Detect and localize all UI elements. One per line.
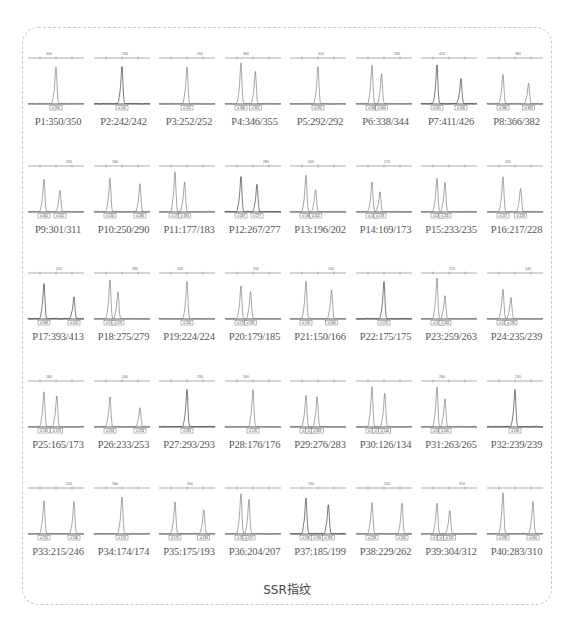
electropherogram: 280sl 275sl 279	[92, 259, 154, 329]
electropherogram: 240sl 235sl 239	[485, 259, 547, 329]
allele-bin-label: sl 173	[53, 429, 61, 433]
panel-p14: 170sl 169sl 173P14:169/173	[354, 152, 420, 260]
panel-p4: 360sl 346sl 355P4:346/355	[223, 44, 289, 152]
panel-p16: 220sl 217sl 228P16:217/228	[485, 152, 551, 260]
peak-trace	[94, 497, 150, 534]
panel-label: P23:259/263	[419, 331, 483, 342]
panel-p2: 250sl 242P2:242/242	[92, 44, 158, 152]
electropherogram: 160sl 165sl 173	[26, 367, 88, 437]
panel-label: P20:179/185	[223, 331, 287, 342]
peak-trace	[159, 67, 215, 104]
axis-tick-label: 200	[187, 482, 193, 486]
panel-label: P28:176/176	[223, 439, 287, 450]
allele-bin-label: sl 301	[40, 214, 48, 218]
panel-label: P36:204/207	[223, 546, 287, 557]
panel-label: P10:250/290	[92, 224, 156, 235]
electropherogram: 310sl 304sl 308sl 312	[419, 474, 481, 544]
peak-trace	[225, 286, 281, 319]
allele-bin-label: sl 175	[379, 321, 387, 325]
axis-tick-label: 240	[122, 375, 128, 379]
panel-label: P27:293/293	[157, 439, 221, 450]
peak-trace	[487, 289, 543, 319]
panel-p34: 160sl 174P34:174/174	[92, 474, 158, 582]
electropherogram: 250sl 229sl 262	[354, 474, 416, 544]
panel-label: P19:224/224	[157, 331, 221, 342]
electropherogram: 360sl 346sl 355	[223, 44, 285, 114]
peak-trace	[421, 387, 477, 427]
axis-tick-label: 260	[439, 375, 445, 379]
peak-trace	[225, 63, 281, 104]
panel-p20: 200sl 179sl 185P20:179/185	[223, 259, 289, 367]
electropherogram: 260sl 252	[157, 44, 219, 114]
allele-bin-label: sl 174	[117, 536, 125, 540]
electropherogram-grid: 340sl 350P1:350/350250sl 242P2:242/24226…	[26, 44, 550, 582]
electropherogram: sl 177sl 183	[157, 152, 219, 222]
electropherogram: sl 233sl 235	[419, 152, 481, 222]
panel-p23: 270sl 259sl 263P23:259/263	[419, 259, 485, 367]
panel-label: P38:229/262	[354, 546, 418, 557]
panel-label: P18:275/279	[92, 331, 156, 342]
peak-trace	[290, 281, 346, 319]
electropherogram: sl 126sl 134sl 144	[354, 367, 416, 437]
axis-tick-label: 290	[197, 375, 203, 379]
peak-trace	[487, 75, 543, 105]
allele-bin-label: sl 202	[312, 214, 320, 218]
panel-p10: 260sl 250sl 290P10:250/290	[92, 152, 158, 260]
panel-label: P4:346/355	[223, 116, 287, 127]
allele-bin-label: sl 263	[441, 321, 449, 325]
axis-tick-label: 310	[318, 52, 324, 56]
allele-bin-label: sl 411	[433, 106, 441, 110]
peak-trace	[421, 278, 477, 319]
electropherogram: sl 283sl 310	[485, 474, 547, 544]
electropherogram: sl 276sl 279sl 283	[288, 367, 350, 437]
peak-trace	[28, 391, 84, 426]
allele-bin-label: sl 229	[367, 536, 375, 540]
panel-label: P37:185/199	[288, 546, 352, 557]
axis-tick-label: 330	[394, 52, 400, 56]
allele-bin-label: sl 207	[244, 536, 252, 540]
peak-trace	[421, 503, 477, 534]
allele-bin-label: sl 283	[498, 536, 506, 540]
panel-p36: sl 204sl 207P36:204/207	[223, 474, 289, 582]
panel-p35: 200sl 175sl 193P35:175/193	[157, 474, 223, 582]
electropherogram: 160sl 176	[223, 367, 285, 437]
panel-p5: 310sl 292P5:292/292	[288, 44, 354, 152]
axis-tick-label: 170	[384, 160, 390, 164]
panel-p15: sl 233sl 235P15:233/235	[419, 152, 485, 260]
allele-bin-label: sl 382	[524, 106, 532, 110]
allele-bin-label: sl 199	[324, 536, 332, 540]
electropherogram: 420sl 411sl 426	[419, 44, 481, 114]
electropherogram: 200sl 196sl 202	[288, 152, 350, 222]
electropherogram: 330sl 338sl 344	[354, 44, 416, 114]
panel-p39: 310sl 304sl 308sl 312P39:304/312	[419, 474, 485, 582]
allele-bin-label: sl 312	[446, 536, 454, 540]
electropherogram: 280sl 267sl 277	[223, 152, 285, 222]
electropherogram: 170sl 169sl 173	[354, 152, 416, 222]
allele-bin-label: sl 233	[105, 429, 113, 433]
allele-bin-label: sl 310	[528, 536, 536, 540]
allele-bin-label: sl 166	[328, 321, 336, 325]
axis-tick-label: 290	[66, 160, 72, 164]
panel-label: P12:267/277	[223, 224, 287, 235]
peak-trace	[225, 176, 281, 211]
allele-bin-label: sl 239	[510, 429, 518, 433]
panel-label: P15:233/235	[419, 224, 483, 235]
allele-bin-label: sl 183	[181, 214, 189, 218]
panel-p26: 240sl 233sl 253P26:233/253	[92, 367, 158, 475]
panel-label: P22:175/175	[354, 331, 418, 342]
peak-trace	[290, 175, 346, 212]
panel-p28: 160sl 176P28:176/176	[223, 367, 289, 475]
peak-trace	[421, 178, 477, 212]
peak-trace	[487, 176, 543, 211]
allele-bin-label: sl 344	[377, 106, 385, 110]
panel-p37: 190sl 185sl 195sl 199P37:185/199	[288, 474, 354, 582]
panel-p8: 380sl 366sl 382P8:366/382	[485, 44, 551, 152]
axis-tick-label: 160	[243, 375, 249, 379]
axis-tick-label: 200	[253, 267, 259, 271]
electropherogram: 200sl 175sl 193	[157, 474, 219, 544]
allele-bin-label: sl 250	[105, 214, 113, 218]
axis-tick-label: 240	[525, 267, 531, 271]
peak-trace	[356, 65, 412, 104]
peak-trace	[94, 178, 150, 212]
allele-bin-label: sl 165	[40, 429, 48, 433]
